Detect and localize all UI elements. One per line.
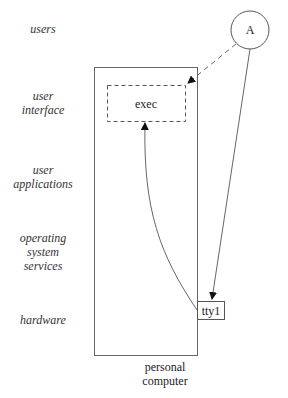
actor-node: A <box>231 11 269 49</box>
edge-tty-to-exec <box>145 123 197 310</box>
diagram-svg: exec A tty1 <box>0 0 288 398</box>
edge-actor-to-tty <box>212 49 250 299</box>
tty-label: tty1 <box>202 304 221 318</box>
personal-computer-caption: personal computer <box>110 360 220 388</box>
exec-node: exec <box>108 86 186 122</box>
tty-node: tty1 <box>198 302 225 320</box>
edge-actor-to-exec <box>188 44 236 83</box>
exec-label: exec <box>135 97 157 111</box>
actor-label: A <box>246 23 255 37</box>
diagram-canvas: users user interface user applications o… <box>0 0 288 398</box>
